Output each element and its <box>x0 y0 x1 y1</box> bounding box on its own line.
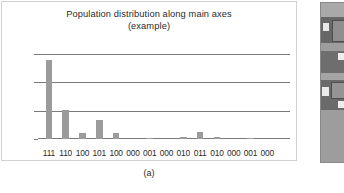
y-tick-mark-000 <box>34 139 38 140</box>
x-tick-label-13: 000 <box>259 148 276 158</box>
x-tick-label-6: 001 <box>141 148 158 158</box>
chart-title-line2: (example) <box>2 20 296 32</box>
chart-title-line1: Population distribution along main axes <box>66 9 232 19</box>
bar-13 <box>259 48 276 139</box>
bar-7 <box>158 48 175 139</box>
x-tick-label-11: 000 <box>225 148 242 158</box>
bar-rect <box>180 137 187 139</box>
bar-rect <box>197 132 204 139</box>
bar-rect <box>79 133 86 139</box>
bar-8 <box>175 48 192 139</box>
x-tick-label-8: 010 <box>175 148 192 158</box>
x-tick-label-4: 100 <box>108 148 125 158</box>
bar-4 <box>108 48 125 139</box>
map-block <box>321 43 344 51</box>
map-block <box>323 23 329 31</box>
plot-area <box>38 48 290 145</box>
bar-6 <box>141 48 158 139</box>
chart-panel: Population distribution along main axes … <box>1 1 297 161</box>
bar-rect <box>46 60 53 139</box>
bar-series <box>38 48 290 139</box>
bar-1 <box>57 48 74 139</box>
x-tick-label-12: 001 <box>242 148 259 158</box>
x-tick-label-2: 100 <box>74 148 91 158</box>
x-tick-label-0: 111 <box>41 148 58 158</box>
map-block <box>332 20 344 42</box>
bar-2 <box>74 48 91 139</box>
x-axis-labels: 1111101001011000000010000100110100000010… <box>38 148 290 160</box>
x-tick-label-9: 011 <box>192 148 209 158</box>
bar-3 <box>91 48 108 139</box>
bar-rect <box>62 110 69 139</box>
map-block <box>321 73 344 80</box>
figure-caption: (a) <box>1 168 297 178</box>
bar-rect <box>113 133 120 139</box>
x-tick-label-3: 101 <box>91 148 108 158</box>
map-block <box>338 101 344 108</box>
bar-0 <box>41 48 58 139</box>
x-tick-label-7: 000 <box>158 148 175 158</box>
map-block <box>321 3 344 17</box>
chart-title: Population distribution along main axes … <box>2 8 296 32</box>
map-block <box>322 87 329 96</box>
bar-11 <box>225 48 242 139</box>
bar-5 <box>125 48 142 139</box>
bar-rect <box>214 137 221 139</box>
x-tick-label-1: 110 <box>57 148 74 158</box>
x-tick-label-5: 000 <box>125 148 142 158</box>
bar-rect <box>96 120 103 139</box>
map-block <box>321 110 344 163</box>
x-tick-label-10: 010 <box>209 148 226 158</box>
map-block <box>338 53 344 60</box>
bar-12 <box>242 48 259 139</box>
figure-root: Population distribution along main axes … <box>0 0 344 193</box>
map-block <box>331 82 344 99</box>
bar-10 <box>209 48 226 139</box>
bar-rect <box>146 138 153 139</box>
grayscale-map-fragment <box>320 2 344 163</box>
bar-rect <box>247 138 254 139</box>
bar-9 <box>192 48 209 139</box>
